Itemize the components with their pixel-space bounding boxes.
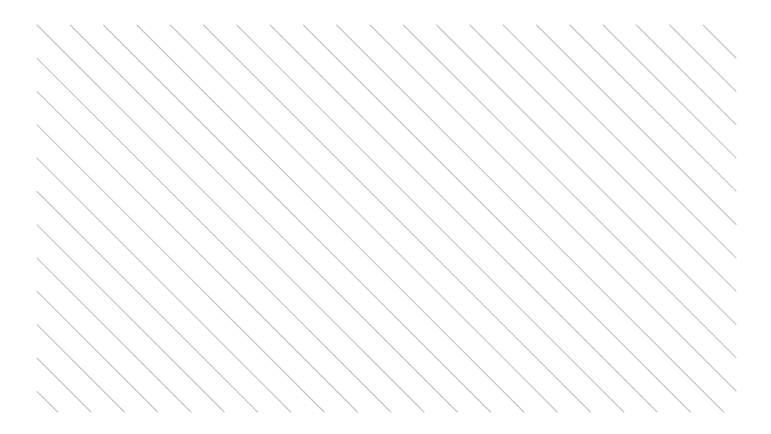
hatch-line — [603, 25, 736, 158]
hatch-line — [37, 391, 58, 412]
hatch-line — [303, 25, 690, 412]
hatch-line — [503, 25, 736, 258]
hatch-line — [37, 158, 291, 412]
hatch-line — [137, 25, 524, 412]
hatch-line — [37, 25, 424, 412]
hatch-line — [70, 25, 457, 412]
hatch-line — [37, 358, 91, 412]
hatch-line — [37, 92, 357, 412]
hatch-line — [37, 58, 391, 412]
hatch-line — [37, 258, 191, 412]
hatch-line — [570, 25, 736, 191]
hatch-line — [37, 291, 158, 412]
hatch-line — [537, 25, 737, 225]
hatch-line — [670, 25, 736, 91]
hatch-line — [337, 25, 724, 412]
hatch-line — [470, 25, 736, 291]
hatch-line — [104, 25, 491, 412]
hatch-pattern-canvas — [0, 0, 771, 434]
diagonal-hatch-lines — [0, 0, 771, 434]
hatch-line — [237, 25, 624, 412]
hatch-line — [37, 325, 124, 412]
hatch-line — [37, 225, 224, 412]
hatch-line — [636, 25, 736, 125]
hatch-line — [37, 192, 258, 413]
hatch-line — [703, 25, 736, 58]
hatch-line — [437, 25, 736, 324]
hatch-line — [270, 25, 657, 412]
hatch-line — [170, 25, 557, 412]
hatch-line — [370, 25, 736, 391]
hatch-line — [204, 25, 591, 412]
